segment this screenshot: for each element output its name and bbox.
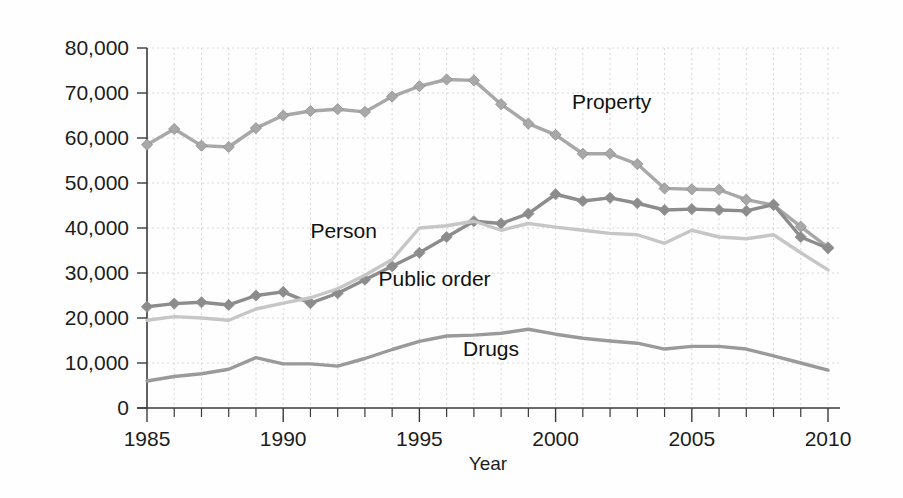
series-label-drugs: Drugs (463, 337, 519, 360)
y-tick-label: 80,000 (65, 36, 129, 59)
data-point-marker (141, 301, 152, 312)
data-point-marker (604, 148, 615, 159)
series-label-person: Person (310, 219, 377, 242)
data-point-marker (686, 204, 697, 215)
x-tick-label: 1985 (124, 427, 171, 450)
y-tick-label: 30,000 (65, 261, 129, 284)
series-public-order (141, 189, 833, 313)
data-point-marker (441, 74, 452, 85)
tick-labels-layer: 010,00020,00030,00040,00050,00060,00070,… (65, 36, 852, 450)
x-tick-label: 2000 (532, 427, 579, 450)
y-tick-label: 0 (117, 396, 129, 419)
x-tick-label: 2010 (805, 427, 852, 450)
data-point-marker (604, 192, 615, 203)
y-tick-label: 70,000 (65, 81, 129, 104)
data-point-marker (741, 205, 752, 216)
series-layer (141, 74, 833, 381)
y-tick-label: 50,000 (65, 171, 129, 194)
x-axis-title: Year (469, 453, 508, 474)
axes-layer (137, 48, 840, 422)
x-tick-label: 1995 (396, 427, 443, 450)
data-point-marker (577, 195, 588, 206)
y-tick-label: 20,000 (65, 306, 129, 329)
data-point-marker (196, 297, 207, 308)
x-tick-label: 2005 (668, 427, 715, 450)
data-point-marker (741, 194, 752, 205)
y-tick-label: 10,000 (65, 351, 129, 374)
data-point-marker (632, 198, 643, 209)
data-point-marker (659, 204, 670, 215)
series-label-property: Property (572, 90, 652, 113)
data-point-marker (223, 299, 234, 310)
data-point-marker (278, 286, 289, 297)
y-tick-label: 60,000 (65, 126, 129, 149)
x-tick-label: 1990 (260, 427, 307, 450)
data-point-marker (278, 110, 289, 121)
data-point-marker (713, 184, 724, 195)
data-point-marker (713, 204, 724, 215)
line-chart: 010,00020,00030,00040,00050,00060,00070,… (0, 0, 903, 498)
data-point-marker (305, 105, 316, 116)
chart-figure: 010,00020,00030,00040,00050,00060,00070,… (0, 0, 903, 498)
data-point-marker (332, 104, 343, 115)
y-tick-label: 40,000 (65, 216, 129, 239)
data-point-marker (250, 290, 261, 301)
series-label-public-order: Public order (379, 267, 491, 290)
series-line (147, 194, 828, 307)
data-point-marker (686, 184, 697, 195)
data-point-marker (414, 81, 425, 92)
data-point-marker (169, 298, 180, 309)
